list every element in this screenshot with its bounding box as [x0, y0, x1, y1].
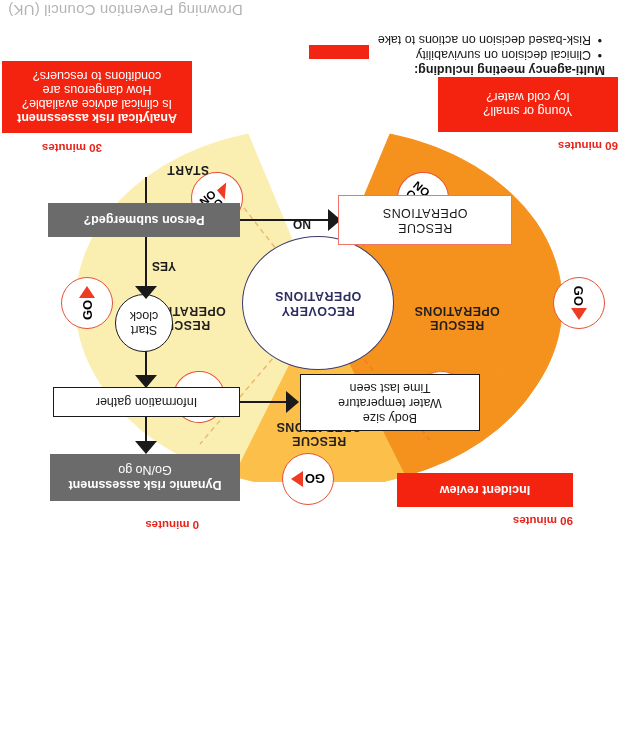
- person-submerged-label: Person submerged?: [84, 213, 205, 228]
- legend-title: Multi-agency meeting including:: [245, 63, 605, 77]
- person-submerged-box: Person submerged?: [48, 203, 240, 237]
- facts-line-3: Time last seen: [350, 381, 431, 395]
- flow-label-yes: YES: [152, 259, 176, 273]
- connector-start: [145, 177, 147, 203]
- facts-line-2: Water temperature: [338, 396, 442, 410]
- wedge-label-left: RESCUE OPERATIONS: [412, 304, 502, 332]
- arrow-up-icon: [135, 375, 157, 388]
- incident-review-box: Incident review: [397, 473, 573, 507]
- connector-yes: [145, 237, 147, 293]
- rotated-poster-canvas: Drowning Prevention Council (UK) Multi-a…: [0, 0, 629, 737]
- go-badge-left-label: GO: [574, 286, 585, 306]
- triangle-icon: [79, 286, 95, 298]
- dynamic-title: Dynamic risk assessment: [69, 478, 222, 492]
- young-line-2: Icy cold water?: [486, 91, 569, 105]
- dynamic-risk-assessment-box: Dynamic risk assessment Go/No go: [50, 454, 240, 501]
- connector-no: [240, 219, 329, 221]
- flow-label-start: START: [167, 163, 209, 177]
- rescue-operations-box: RESCUE OPERATIONS: [338, 195, 512, 245]
- information-facts-box: Body size Water temperature Time last se…: [300, 374, 480, 431]
- facts-line-1: Body size: [363, 411, 417, 425]
- list-item: Risk-based decision on actions to take: [245, 32, 591, 47]
- time-label-90: 90 minutes: [513, 515, 573, 527]
- wedge-label-left-text: RESCUE OPERATIONS: [414, 304, 500, 332]
- analytical-line-1: Is clinical advice available?: [22, 97, 172, 111]
- start-clock-line-2: clock: [130, 309, 158, 323]
- dynamic-sub: Go/No go: [118, 464, 172, 478]
- young-cold-water-box: Young or small? Icy cold water?: [438, 77, 618, 132]
- start-clock-line-1: Start: [131, 323, 157, 337]
- triangle-icon: [291, 471, 303, 487]
- information-gather-box: Information gather: [53, 387, 240, 417]
- connector-info-to-facts: [239, 401, 287, 403]
- arrow-up-icon: [135, 286, 157, 299]
- rescue-operations-label: RESCUE OPERATIONS: [382, 205, 467, 235]
- time-label-30: 30 minutes: [42, 142, 102, 154]
- flow-label-no: NO: [293, 217, 311, 231]
- go-badge-right-label: GO: [82, 300, 93, 320]
- analytical-line-3: conditions to rescuers?: [33, 69, 162, 83]
- start-clock-node: Start clock: [115, 294, 173, 352]
- source-caption: Drowning Prevention Council (UK): [0, 0, 629, 19]
- arrow-up-icon: [135, 441, 157, 454]
- list-item: Clinical decision on survivability: [245, 47, 591, 62]
- recovery-operations-core: RECOVERY OPERATIONS: [242, 236, 394, 370]
- analytical-line-2: How dangerous are: [42, 83, 151, 97]
- go-badge-top[interactable]: GO: [282, 453, 334, 505]
- go-badge-right[interactable]: GO: [61, 277, 113, 329]
- multi-agency-legend: Multi-agency meeting including: Clinical…: [245, 32, 605, 77]
- recovery-operations-label: RECOVERY OPERATIONS: [275, 288, 362, 318]
- analytical-risk-assessment-box: Analytical risk assessment Is clinical a…: [2, 61, 192, 133]
- information-gather-label: Information gather: [96, 395, 197, 410]
- analytical-title: Analytical risk assessment: [17, 111, 177, 125]
- young-line-1: Young or small?: [483, 105, 572, 119]
- go-badge-top-label: GO: [305, 474, 325, 485]
- arrow-left-icon: [286, 391, 299, 413]
- go-badge-left[interactable]: GO: [553, 277, 605, 329]
- incident-review-label: Incident review: [440, 483, 530, 497]
- triangle-icon: [571, 308, 587, 320]
- time-label-60: 60 minutes: [558, 140, 618, 152]
- time-label-0: 0 minutes: [145, 519, 199, 531]
- legend-list: Clinical decision on survivability Risk-…: [245, 32, 605, 62]
